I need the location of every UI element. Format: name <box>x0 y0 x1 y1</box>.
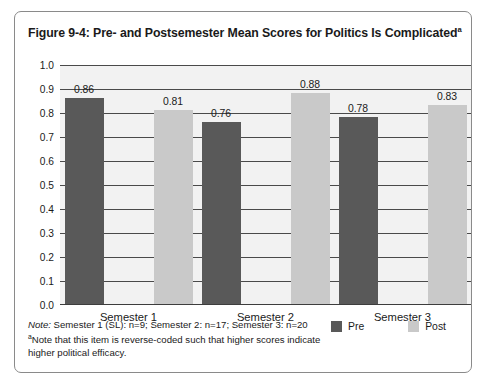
bar-value-label: 0.78 <box>327 103 390 114</box>
y-tick-label: 0.6 <box>40 156 54 167</box>
legend-label: Pre <box>348 321 364 332</box>
bar-value-label: 0.86 <box>53 84 116 95</box>
y-tick-label: 0.7 <box>40 132 54 143</box>
legend-item-post: Post <box>408 321 446 332</box>
note-lead: Note: <box>28 319 51 330</box>
y-tick-label: 0.5 <box>40 180 54 191</box>
y-tick-label: 0.0 <box>40 300 54 311</box>
note-line: Note: Semester 1 (SL): n=9; Semester 2: … <box>28 318 328 332</box>
y-tick-label: 0.1 <box>40 276 54 287</box>
legend-swatch-icon <box>331 321 342 332</box>
plot-area <box>60 65 471 305</box>
gridline <box>60 233 471 234</box>
gridline <box>60 209 471 210</box>
bar-value-label: 0.88 <box>279 79 342 90</box>
gridline <box>60 113 471 114</box>
gridline <box>60 137 471 138</box>
note-text: Semester 1 (SL): n=9; Semester 2: n=17; … <box>51 319 308 330</box>
gridline <box>60 281 471 282</box>
chart-legend: PrePost <box>331 321 446 332</box>
bar-value-label: 0.76 <box>190 108 253 119</box>
gridline <box>60 257 471 258</box>
gridline <box>60 65 471 66</box>
gridline <box>60 89 471 90</box>
figure-title: Figure 9-4: Pre- and Postsemester Mean S… <box>28 25 462 40</box>
chart-plot: 1.00.90.80.70.60.50.40.30.20.10.0 Semest… <box>60 65 471 305</box>
gridline <box>60 185 471 186</box>
y-tick-label: 0.8 <box>40 108 54 119</box>
bar-post-semester-1 <box>154 110 193 304</box>
footnote-line: aNote that this item is reverse-coded su… <box>28 332 328 360</box>
figure-notes: Note: Semester 1 (SL): n=9; Semester 2: … <box>28 318 328 360</box>
bar-value-label: 0.83 <box>416 91 479 102</box>
bar-post-semester-3 <box>428 105 467 304</box>
bar-post-semester-2 <box>291 93 330 304</box>
legend-label: Post <box>425 321 446 332</box>
figure-frame: Figure 9-4: Pre- and Postsemester Mean S… <box>14 11 472 373</box>
legend-swatch-icon <box>408 321 419 332</box>
bar-pre-semester-2 <box>202 122 241 304</box>
gridline <box>60 161 471 162</box>
footnote-text: Note that this item is reverse-coded suc… <box>28 334 320 359</box>
bar-pre-semester-1 <box>65 98 104 304</box>
bar-value-label: 0.81 <box>142 96 205 107</box>
bar-pre-semester-3 <box>339 117 378 304</box>
legend-item-pre: Pre <box>331 321 364 332</box>
figure-title-text: Figure 9-4: Pre- and Postsemester Mean S… <box>28 26 457 40</box>
y-tick-label: 0.3 <box>40 228 54 239</box>
y-tick-label: 1.0 <box>40 60 54 71</box>
y-tick-label: 0.4 <box>40 204 54 215</box>
y-tick-label: 0.2 <box>40 252 54 263</box>
figure-title-superscript: a <box>457 25 461 34</box>
